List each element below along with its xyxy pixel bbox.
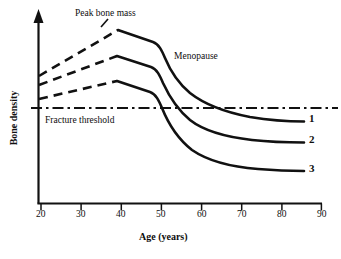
x-tick-label-50: 50 <box>156 210 166 220</box>
series-label-1: 1 <box>309 113 315 124</box>
annotation-fracture-threshold: Fracture threshold <box>45 116 114 126</box>
y-axis <box>34 9 44 204</box>
x-tick-label-80: 80 <box>277 210 287 220</box>
bone-density-chart: 20 30 40 50 60 70 80 90 Age (years) Bone… <box>0 0 341 259</box>
y-axis-title: Bone density <box>6 78 20 158</box>
series-3-line <box>39 81 304 171</box>
peak-bone-mass-leader <box>101 19 108 27</box>
annotation-peak-bone-mass: Peak bone mass <box>75 9 136 19</box>
series-label-2: 2 <box>309 134 315 145</box>
x-tick-label-90: 90 <box>317 210 327 220</box>
annotation-menopause: Menopause <box>174 52 218 62</box>
x-tick-label-40: 40 <box>116 210 126 220</box>
chart-plot-area <box>0 0 341 259</box>
y-axis-title-text: Bone density <box>8 91 19 146</box>
x-tick-label-70: 70 <box>237 210 247 220</box>
x-tick-label-30: 30 <box>76 210 86 220</box>
x-tick-label-20: 20 <box>36 210 46 220</box>
series-label-3: 3 <box>309 163 315 174</box>
x-tick-label-60: 60 <box>197 210 207 220</box>
x-axis-title: Age (years) <box>139 232 188 242</box>
